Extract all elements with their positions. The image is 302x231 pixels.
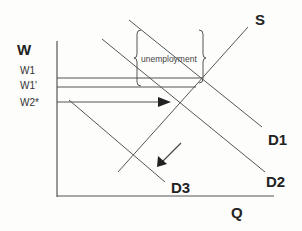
supply-label: S [255,11,265,28]
arrow-down-left-icon [157,156,167,167]
shift-arrow-line [162,143,181,162]
tick-w1: W1 [20,65,35,76]
y-axis-label: W [17,41,31,58]
d1-label: D1 [268,131,287,148]
arrow-right-icon [158,97,171,107]
tick-w1-prime: W1' [20,80,37,91]
x-axis-label: Q [231,204,243,221]
labor-market-diagram: W W1 W1' W2* unemployment S D1 D2 D3 Q [0,0,302,231]
d3-label: D3 [171,179,190,196]
demand-curve-d3 [69,100,165,182]
demand-curve-d1 [129,20,262,127]
tick-w2-star: W2* [20,97,39,108]
diagram-canvas [0,0,302,231]
unemployment-label: unemployment [141,54,197,64]
d2-label: D2 [266,173,285,190]
